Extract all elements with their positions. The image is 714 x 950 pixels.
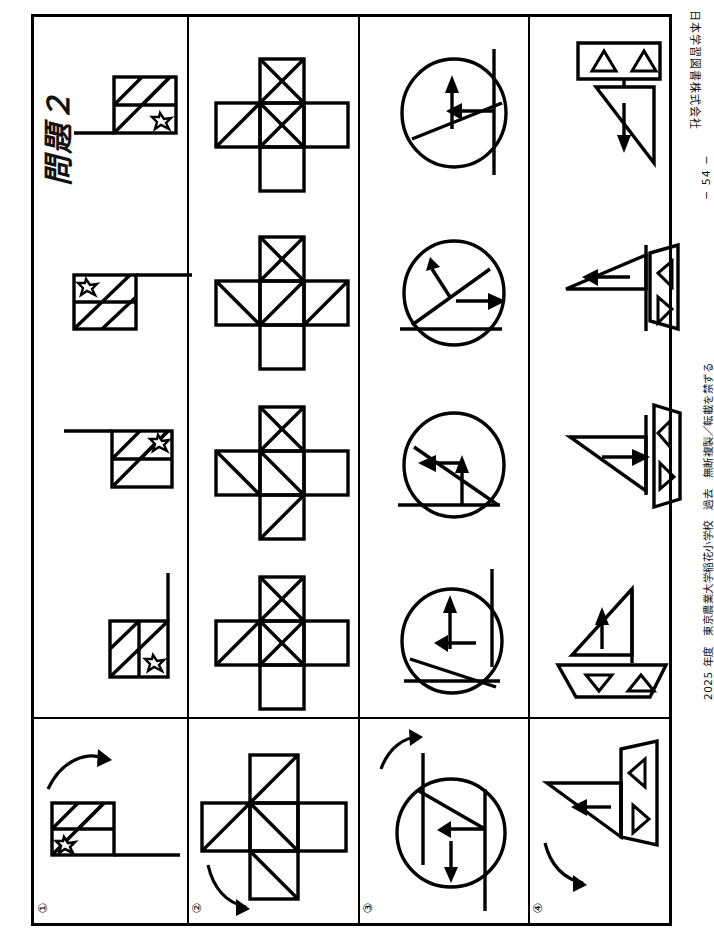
row-4-option-2[interactable] (552, 225, 682, 365)
row-2-option-4[interactable] (222, 573, 348, 705)
row-1-option-3[interactable] (54, 399, 194, 529)
exam-page: 日本学習図書株式会社 2025 年度 東京農業大学稲花小学校 過去 無断複製／転… (0, 0, 714, 950)
row-2-option-3[interactable] (222, 403, 348, 535)
publisher-name: 日本学習図書株式会社 (688, 10, 704, 130)
row-4-option-3[interactable] (552, 399, 682, 539)
row-1-question-figure (40, 733, 186, 928)
row-3-question-figure (363, 733, 527, 928)
row-4-option-4[interactable] (554, 573, 674, 713)
problem-grid: ① ② ③ ④ (31, 14, 672, 926)
row-4-option-1[interactable] (554, 31, 684, 176)
row-3-option-4[interactable] (390, 573, 520, 705)
row-4-question-figure (533, 733, 673, 933)
grid-column-divider-2 (358, 17, 360, 923)
row-1-option-1[interactable] (74, 45, 189, 180)
row-1-option-2[interactable] (46, 233, 196, 363)
copyright-notice: 2025 年度 東京農業大学稲花小学校 過去 無断複製／転載を禁ずる (700, 363, 714, 700)
grid-column-divider-3 (528, 17, 530, 923)
page-number: − 54 − (700, 155, 713, 200)
row-2-option-1[interactable] (222, 55, 348, 191)
row-2-option-2[interactable] (222, 233, 348, 365)
row-2-question-figure (192, 733, 356, 928)
row-3-option-2[interactable] (390, 229, 520, 361)
grid-question-divider (34, 717, 669, 719)
row-3-option-3[interactable] (390, 401, 520, 533)
row-1-option-4[interactable] (74, 573, 184, 703)
row-3-option-1[interactable] (390, 43, 526, 183)
